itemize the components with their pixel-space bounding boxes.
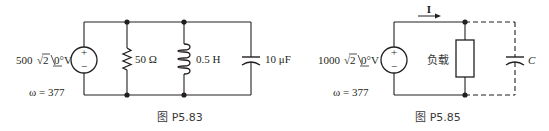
- node-dot: [181, 92, 186, 97]
- source-magnitude: 500: [16, 54, 33, 66]
- source-sqrt: √2: [344, 54, 356, 66]
- node-dot: [124, 19, 129, 24]
- plus-sign: +: [391, 46, 397, 58]
- minus-sign: −: [81, 60, 87, 72]
- resistor-icon: [123, 48, 131, 70]
- node-dot: [462, 92, 467, 97]
- current-arrowhead-icon: [435, 14, 441, 19]
- source-angle: 0°: [361, 54, 371, 66]
- omega-label: ω = 377: [29, 86, 65, 98]
- figure-caption: 图 P5.85: [415, 111, 461, 124]
- inductor-icon: [178, 44, 190, 74]
- inductor-label: 0.5 H: [196, 53, 221, 65]
- node-dot: [462, 19, 467, 24]
- capacitor-label: C: [528, 54, 536, 66]
- figure-caption: 图 P5.83: [157, 111, 203, 124]
- source-label-p585: 1000 √2 0° V: [318, 54, 379, 66]
- source-sqrt: √2: [37, 54, 49, 66]
- plus-sign: +: [81, 46, 87, 58]
- dashed-connection: [465, 22, 515, 95]
- node-dot: [124, 92, 129, 97]
- source-unit: V: [371, 54, 379, 66]
- current-label: I: [427, 3, 431, 15]
- capacitor-label: 10 μF: [265, 53, 291, 65]
- load-box-icon: [456, 40, 474, 77]
- circuit-p585: [381, 16, 524, 95]
- source-angle: 0°: [54, 54, 64, 66]
- circuit-p583: [71, 22, 260, 95]
- load-label: 负载: [427, 53, 449, 67]
- circuit-diagrams: + − 500 √2 0° V ω = 377 50 Ω 0.5 H 10 μF…: [0, 0, 549, 131]
- source-label-p583: 500 √2 0° V: [16, 54, 72, 66]
- omega-label: ω = 377: [333, 86, 369, 98]
- resistor-label: 50 Ω: [135, 53, 157, 65]
- source-magnitude: 1000: [318, 54, 341, 66]
- node-dot: [181, 19, 186, 24]
- source-unit: V: [64, 54, 72, 66]
- minus-sign: −: [391, 60, 397, 72]
